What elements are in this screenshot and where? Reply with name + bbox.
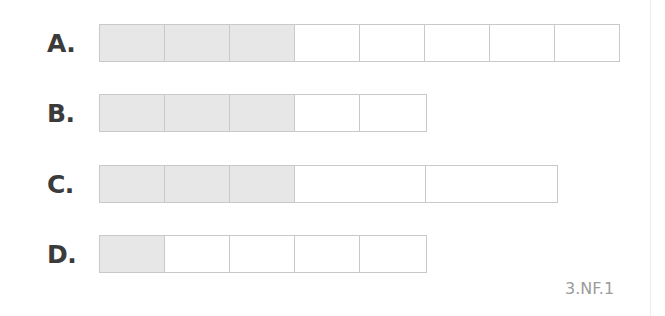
unshaded-cell [295, 25, 360, 61]
unshaded-cell [165, 236, 230, 272]
unshaded-cell [295, 236, 360, 272]
unshaded-cell [360, 25, 425, 61]
unshaded-cell [425, 25, 490, 61]
unshaded-cell [555, 25, 619, 61]
row-label: B. [47, 98, 75, 130]
unshaded-cell [360, 236, 426, 272]
shaded-cell [100, 236, 165, 272]
unshaded-cell [295, 95, 360, 131]
unshaded-cell [295, 166, 426, 202]
fraction-bar [99, 165, 558, 203]
standard-code-label: 3.NF.1 [565, 279, 614, 298]
shaded-cell [230, 95, 295, 131]
fraction-row-a: A. [0, 24, 665, 64]
shaded-cell [165, 166, 230, 202]
fraction-row-c: C. [0, 165, 665, 205]
shaded-cell [100, 95, 165, 131]
shaded-cell [230, 25, 295, 61]
row-label: A. [47, 28, 75, 60]
fraction-row-d: D. [0, 235, 665, 275]
shaded-cell [100, 166, 165, 202]
shaded-cell [165, 25, 230, 61]
row-label: C. [47, 169, 74, 201]
shaded-cell [230, 166, 295, 202]
fraction-bar [99, 94, 427, 132]
fraction-bar [99, 235, 427, 273]
shaded-cell [100, 25, 165, 61]
row-label: D. [47, 239, 76, 271]
unshaded-cell [490, 25, 555, 61]
unshaded-cell [426, 166, 557, 202]
unshaded-cell [360, 95, 426, 131]
shaded-cell [165, 95, 230, 131]
fraction-bar [99, 24, 620, 62]
fraction-row-b: B. [0, 94, 665, 134]
unshaded-cell [230, 236, 295, 272]
